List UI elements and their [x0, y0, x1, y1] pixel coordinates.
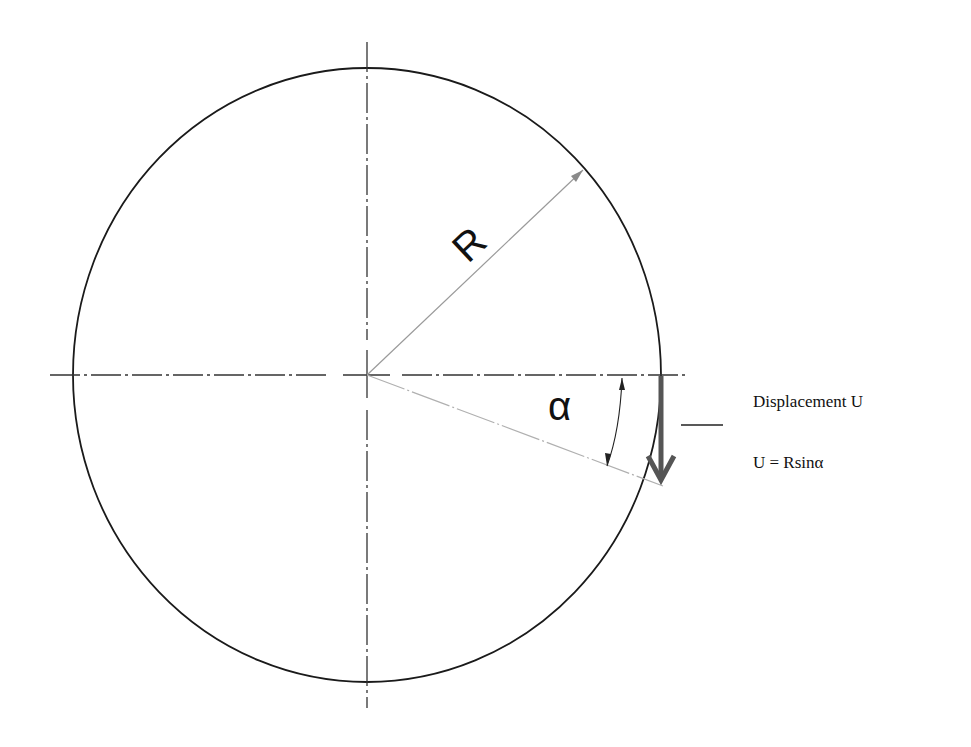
angle-arc-dimension: [605, 378, 625, 466]
displacement-arrow: [648, 376, 674, 480]
displacement-label: Displacement U: [753, 392, 863, 412]
radius-dimension: [367, 170, 583, 375]
formula-label: U = Rsinα: [753, 453, 823, 473]
circle-displacement-diagram: [0, 0, 971, 747]
angle-label: α: [548, 384, 571, 429]
angled-radius-line: [367, 375, 663, 486]
